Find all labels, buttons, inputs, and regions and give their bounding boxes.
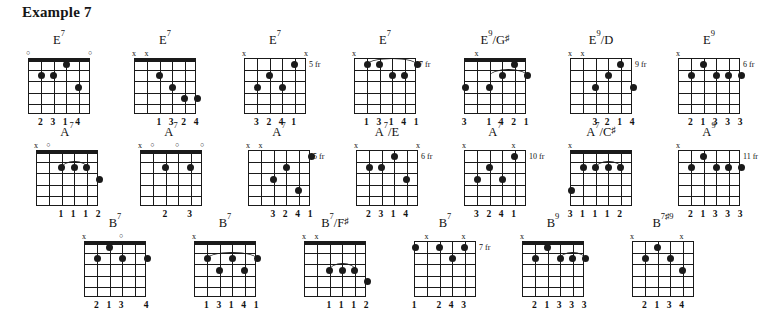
fret-position-label: 7 fr xyxy=(419,60,430,69)
finger-number: 2 xyxy=(92,300,101,311)
muted-string-icon: x xyxy=(142,49,151,58)
open-string-icon: ○ xyxy=(24,49,33,58)
finger-dot xyxy=(270,176,277,183)
finger-numbers: 13141 xyxy=(172,300,276,311)
finger-number: 4 xyxy=(447,300,456,311)
chord-diagram[interactable]: A9x11 fr21333 xyxy=(656,126,760,221)
muted-string-icon: x xyxy=(190,232,199,241)
fret-line xyxy=(37,185,97,186)
chord-name-label: A9 xyxy=(657,126,760,139)
nut-bar xyxy=(36,150,98,154)
finger-dot xyxy=(351,267,358,274)
finger-dot xyxy=(474,176,481,183)
finger-number: 2 xyxy=(530,300,539,311)
finger-dot xyxy=(389,72,396,79)
finger-dot xyxy=(279,84,286,91)
chord-diagram[interactable]: E9x6 fr21333 xyxy=(656,34,760,129)
muted-string-icon: x xyxy=(130,49,139,58)
fret-line xyxy=(135,104,195,105)
fretboard-grid xyxy=(570,58,632,114)
chord-diagram[interactable]: A7/Exx6 fr2314 xyxy=(334,126,438,221)
chord-diagram[interactable]: B7x○2134 xyxy=(62,217,166,312)
fret-line xyxy=(305,287,365,288)
fret-line xyxy=(415,253,475,254)
finger-number: 3 xyxy=(555,300,564,311)
fret-line xyxy=(571,93,631,94)
open-string-icon: ○ xyxy=(44,141,53,150)
fret-line xyxy=(679,93,739,94)
finger-number: 1 xyxy=(324,300,333,311)
chord-diagram[interactable]: E9/G♯x31421 xyxy=(442,34,546,129)
fret-line xyxy=(571,104,631,105)
chord-diagram[interactable]: B7/F♯xx1112 xyxy=(282,217,386,312)
finger-dot xyxy=(436,244,443,251)
fret-line xyxy=(415,264,475,265)
finger-number: 1 xyxy=(652,300,661,311)
chord-diagram[interactable]: A7xx10 fr3241 xyxy=(442,126,546,221)
chord-diagram[interactable]: E9/Dxx9 fr3214 xyxy=(548,34,652,129)
fret-line xyxy=(245,93,305,94)
chord-diagram[interactable]: B7xx7 fr1243 xyxy=(392,217,496,312)
finger-dot xyxy=(713,164,720,171)
finger-numbers: 21333 xyxy=(500,300,604,311)
finger-dot xyxy=(654,244,661,251)
fretboard-grid xyxy=(632,241,694,297)
finger-dot xyxy=(106,244,113,251)
fret-line xyxy=(135,81,195,82)
string-markers: x○○○ xyxy=(118,141,222,150)
finger-number: 1 xyxy=(337,300,346,311)
fret-line xyxy=(571,196,631,197)
fret-line xyxy=(85,287,145,288)
fret-line xyxy=(571,81,631,82)
string-markers: xx xyxy=(282,232,386,241)
fret-line xyxy=(245,70,305,71)
chord-diagram[interactable]: E7○○2314 xyxy=(8,34,112,129)
fret-line xyxy=(29,70,89,71)
string-markers: xx xyxy=(548,49,652,58)
chord-diagram[interactable]: E7x7 fr13141 xyxy=(332,34,436,129)
finger-dot xyxy=(700,61,707,68)
finger-numbers: 1112 xyxy=(282,300,386,311)
finger-dot xyxy=(568,187,575,194)
open-string-icon: ○ xyxy=(86,49,95,58)
fret-line xyxy=(679,185,739,186)
finger-dot xyxy=(50,72,57,79)
string-markers: xx xyxy=(226,141,330,150)
chord-diagram[interactable]: A7/C♯x31112 xyxy=(548,126,652,221)
chord-name-label: E7 xyxy=(7,34,111,47)
finger-number: 3 xyxy=(580,300,589,311)
fret-line xyxy=(465,104,525,105)
finger-number: 4 xyxy=(142,300,151,311)
chord-diagram[interactable]: B7♯9xx2134 xyxy=(610,217,714,312)
chord-diagram[interactable]: A7xx5 fr3241 xyxy=(226,126,330,221)
muted-string-icon: x xyxy=(136,141,145,150)
muted-string-icon: x xyxy=(350,49,359,58)
fret-line xyxy=(195,276,255,277)
finger-dot xyxy=(94,255,101,262)
fretboard-grid xyxy=(140,150,202,206)
chord-diagram[interactable]: A7x○1112 xyxy=(14,126,118,221)
chord-diagram[interactable]: B7x13141 xyxy=(172,217,276,312)
fret-line xyxy=(571,185,631,186)
finger-numbers: 2134 xyxy=(610,300,714,311)
muted-string-icon: x xyxy=(578,49,587,58)
finger-number: 1 xyxy=(104,300,113,311)
fretboard-grid xyxy=(248,150,310,206)
string-markers: ○○ xyxy=(8,49,112,58)
nut-bar xyxy=(194,241,256,245)
fret-line xyxy=(357,196,417,197)
finger-number: 1 xyxy=(410,300,419,311)
chord-name-label: E9 xyxy=(657,34,760,47)
chord-diagram[interactable]: A7x○○○23 xyxy=(118,126,222,221)
muted-string-icon: x xyxy=(300,232,309,241)
open-string-icon: ○ xyxy=(173,141,182,150)
fret-line xyxy=(633,287,693,288)
fret-line xyxy=(633,276,693,277)
string-markers: xx xyxy=(222,49,326,58)
chord-diagram[interactable]: E7xx5 fr3241 xyxy=(222,34,326,129)
fret-line xyxy=(249,173,309,174)
chord-diagram[interactable]: E7xx1324 xyxy=(112,34,216,129)
chord-diagram[interactable]: B9x21333 xyxy=(500,217,604,312)
fretboard-grid xyxy=(678,58,740,114)
finger-number: 2 xyxy=(640,300,649,311)
